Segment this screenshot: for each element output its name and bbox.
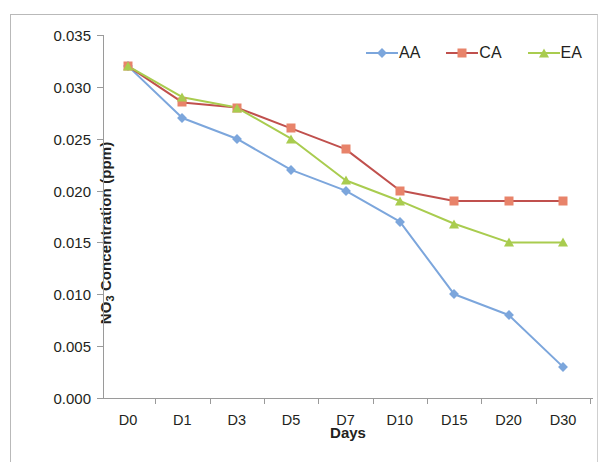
legend-label: AA [399,45,420,61]
x-axis-line [103,398,593,399]
legend-swatch-ca [446,46,478,60]
y-axis-tick-label: 0.020 [53,182,91,199]
x-axis-tick [373,398,374,404]
data-point-ca [559,196,568,205]
series-lines [103,35,592,398]
legend-swatch-aa [366,46,398,60]
plot-area: 0.0000.0050.0100.0150.0200.0250.0300.035… [103,35,592,398]
data-point-ea [286,134,296,143]
y-axis-tick-label: 0.010 [53,286,91,303]
legend-marker-icon [539,49,549,58]
chart-figure: NO3 Concentration (ppm) 0.0000.0050.0100… [0,0,603,466]
data-point-ea [341,176,351,185]
x-axis-tick [481,398,482,404]
legend-label: CA [479,45,501,61]
y-axis-tick-label: 0.000 [53,390,91,407]
legend-marker-icon [377,48,387,58]
legend-swatch-ea [528,46,560,60]
y-axis-tick-label: 0.015 [53,234,91,251]
y-axis-tick-label: 0.005 [53,338,91,355]
data-point-ca [287,124,296,133]
x-axis-tick [155,398,156,404]
data-point-ea [449,219,459,228]
y-axis-tick-label: 0.030 [53,78,91,95]
y-axis-tick [97,398,103,399]
x-axis-tick [264,398,265,404]
legend-marker-icon [458,49,467,58]
data-point-ca [341,145,350,154]
data-point-ca [395,186,404,195]
legend-item-ea[interactable]: EA [528,45,582,61]
series-line-ea [128,66,563,242]
data-point-ea [558,238,568,247]
x-axis-tick [590,398,591,404]
x-axis-tick [318,398,319,404]
chart-legend: AACAEA [366,45,582,61]
data-point-ca [504,196,513,205]
x-axis-tick [536,398,537,404]
data-point-ea [504,238,514,247]
data-point-ea [123,62,133,71]
y-axis-tick-label: 0.025 [53,130,91,147]
data-point-ea [177,93,187,102]
legend-item-ca[interactable]: CA [446,45,501,61]
data-point-ca [450,196,459,205]
x-axis-tick [210,398,211,404]
x-axis-tick [427,398,428,404]
data-point-ea [232,103,242,112]
x-axis-title: Days [103,424,593,441]
y-axis-tick-label: 0.035 [53,27,91,44]
data-point-ea [395,196,405,205]
legend-label: EA [561,45,582,61]
series-line-aa [128,66,563,367]
legend-item-aa[interactable]: AA [366,45,420,61]
